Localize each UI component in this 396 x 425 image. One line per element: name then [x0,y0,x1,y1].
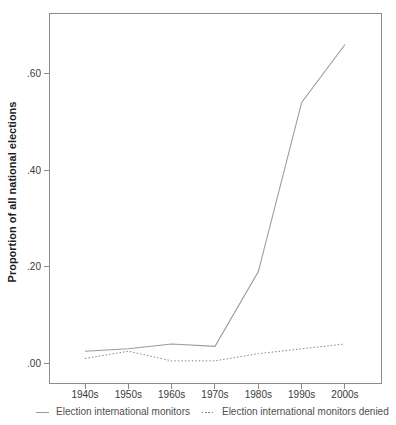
y-tick-label: .00 [27,358,41,369]
legend-label-denied: Election international monitors denied [222,406,389,418]
x-tick-label: 1940s [71,389,98,400]
x-tick-label: 1980s [245,389,272,400]
line-chart: Proportion of all national elections .00… [0,0,396,425]
x-tick-label: 1970s [201,389,228,400]
x-tick-label: 1990s [288,389,315,400]
legend-label-monitors: Election international monitors [56,406,190,418]
plot-area: Proportion of all national elections .00… [0,0,396,405]
y-tick-label: .20 [27,261,41,272]
series-line-solid [85,45,345,352]
legend: Election international monitors Election… [36,406,389,418]
legend-item-denied: Election international monitors denied [202,406,389,418]
x-tick-label: 1950s [115,389,142,400]
y-tick-label: .60 [27,68,41,79]
x-tick-label: 1960s [158,389,185,400]
x-tick-label: 2000s [331,389,358,400]
legend-line-dotted-sample [202,412,215,413]
y-axis-title: Proportion of all national elections [6,102,18,283]
legend-item-monitors: Election international monitors [36,406,190,418]
plot-border [49,13,381,384]
y-tick-label: .40 [27,165,41,176]
legend-line-solid-sample [36,412,49,413]
